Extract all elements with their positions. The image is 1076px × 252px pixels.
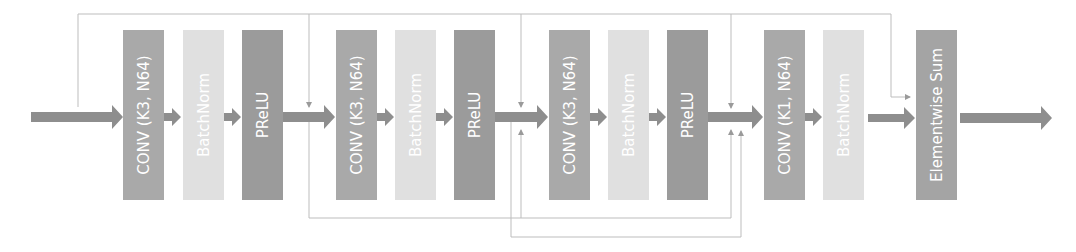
arrow-bn1-prelu1 <box>224 108 241 126</box>
conv-block-2-label: CONV (K3, N64) <box>348 55 366 174</box>
conv-block-3-label: CONV (K3, N64) <box>561 55 579 174</box>
batchnorm-block-2-label: BatchNorm <box>407 73 425 157</box>
arrow-prelu2-conv3 <box>495 105 548 129</box>
batchnorm-block-4: BatchNorm <box>823 30 864 200</box>
dense-residual-block-diagram: CONV (K3, N64) BatchNorm PReLU CONV (K3,… <box>0 0 1076 252</box>
conv-block-2: CONV (K3, N64) <box>336 30 377 200</box>
prelu-block-3: PReLU <box>667 30 708 200</box>
arrow-prelu3-conv4 <box>708 105 763 129</box>
conv-block-3: CONV (K3, N64) <box>549 30 590 200</box>
arrow-bn2-prelu2 <box>436 108 453 126</box>
arrow-conv3-bn3 <box>590 108 607 126</box>
conv-block-1-label: CONV (K3, N64) <box>135 55 153 174</box>
batchnorm-block-1: BatchNorm <box>183 30 224 200</box>
conv-block-1: CONV (K3, N64) <box>123 30 164 200</box>
batchnorm-block-4-label: BatchNorm <box>835 73 853 157</box>
batchnorm-block-1-label: BatchNorm <box>195 73 213 157</box>
arrow-bn4-sum <box>868 107 915 129</box>
prelu-block-2: PReLU <box>454 30 495 200</box>
batchnorm-block-2: BatchNorm <box>395 30 436 200</box>
prelu-block-2-label: PReLU <box>466 92 484 139</box>
elementwise-sum-block: Elementwise Sum <box>916 30 957 200</box>
arrow-bn3-prelu3 <box>649 108 666 126</box>
elementwise-sum-label: Elementwise Sum <box>928 48 946 182</box>
arrow-conv1-bn1 <box>164 108 181 126</box>
output-arrow <box>960 106 1052 130</box>
conv-block-4-label: CONV (K1, N64) <box>776 55 794 174</box>
prelu-block-1-label: PReLU <box>254 92 272 139</box>
prelu-block-3-label: PReLU <box>679 92 697 139</box>
input-arrow <box>31 105 123 129</box>
batchnorm-block-3-label: BatchNorm <box>620 73 638 157</box>
arrow-conv4-bn4 <box>805 108 822 126</box>
prelu-block-1: PReLU <box>242 30 283 200</box>
arrow-conv2-bn2 <box>377 108 394 126</box>
conv-block-4: CONV (K1, N64) <box>764 30 805 200</box>
batchnorm-block-3: BatchNorm <box>608 30 649 200</box>
